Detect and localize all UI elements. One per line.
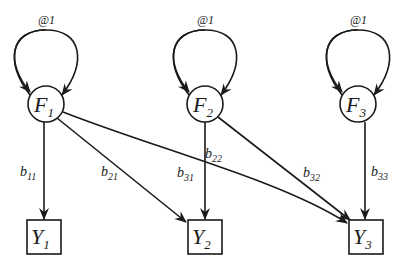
path-label-b11: b11 [20, 164, 36, 182]
path-label-b33: b33 [371, 164, 388, 182]
variance-label-f1: @1 [38, 13, 55, 27]
variance-loop-f3: @1 [326, 13, 389, 95]
path-label-b32: b32 [303, 165, 320, 183]
path-label-b21: b21 [101, 164, 118, 182]
path-label-b22: b22 [205, 146, 222, 164]
factor-node-f2: F2 [187, 86, 223, 122]
indicator-node-y1: Y1 [27, 220, 61, 254]
variance-label-f3: @1 [350, 13, 367, 27]
indicator-node-y2: Y2 [188, 220, 222, 254]
variance-loop-f2: @1 [173, 13, 236, 95]
indicator-node-y3: Y3 [349, 220, 383, 254]
path-f2-y3 [218, 117, 350, 220]
variance-label-f2: @1 [197, 13, 214, 27]
path-label-b31: b31 [177, 165, 194, 183]
factor-node-f3: F3 [340, 86, 376, 122]
variance-loop-f1: @1 [14, 13, 77, 95]
path-diagram: @1 @1 @1 b11 b21 b31 b22 b32 b33 F1 F2 F… [0, 0, 406, 271]
factor-node-f1: F1 [28, 86, 64, 122]
